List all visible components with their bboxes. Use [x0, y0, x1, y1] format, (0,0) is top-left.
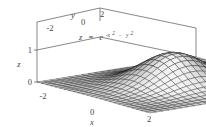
x-tick-label-0: 0 — [90, 107, 94, 117]
z-tick-label-0: 0 — [28, 77, 32, 87]
z-tick-label-1: 1 — [28, 45, 32, 55]
equation-exp-y: y — [125, 32, 129, 38]
plot-canvas: 1 0 -2 0 2 -2 0 2 z y x z = e -x 2 − — [0, 0, 206, 127]
x-axis-label: x — [89, 117, 94, 127]
y-tick-label-neg2: -2 — [46, 23, 53, 33]
gaussian-surface-mesh — [37, 52, 206, 113]
equation-equals: = — [88, 32, 93, 42]
y-tick-label-2: 2 — [100, 9, 104, 19]
x-tick-label-neg2: -2 — [39, 91, 46, 101]
box-edge-top-right — [100, 8, 196, 28]
x-tick-label-2: 2 — [147, 114, 151, 124]
equation-base: e — [99, 32, 103, 42]
surface-plot-figure: 1 0 -2 0 2 -2 0 2 z y x z = e -x 2 − — [0, 0, 206, 127]
equation-exp-minus: − — [119, 32, 123, 38]
y-tick-label-0: 0 — [81, 17, 85, 27]
equation-exp-y-power: 2 — [130, 30, 133, 36]
equation-exp-negx: -x — [106, 32, 111, 38]
y-axis-label: y — [70, 10, 75, 20]
z-axis-label: z — [16, 59, 21, 69]
box-edge-top-left — [37, 8, 100, 22]
equation-exp-x-power: 2 — [112, 30, 115, 36]
equation-lhs: z — [78, 32, 83, 42]
